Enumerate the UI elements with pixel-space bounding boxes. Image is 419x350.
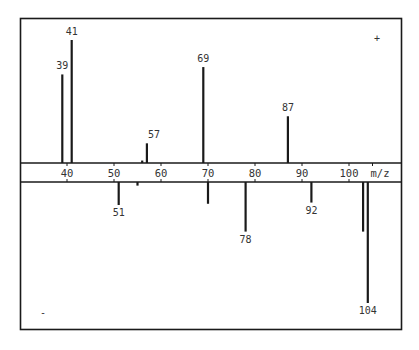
x-tick-label: 40 xyxy=(61,167,74,179)
peak-label-mz-78: 78 xyxy=(240,234,252,245)
negative-spectrum: 517892104 xyxy=(113,182,377,316)
peak-label-mz-104: 104 xyxy=(359,305,377,316)
peak-label-mz-41: 41 xyxy=(66,26,78,37)
negative-panel-symbol: - xyxy=(40,307,46,318)
x-tick-label: 90 xyxy=(296,167,309,179)
x-axis-ticks: 405060708090100 xyxy=(61,163,373,182)
peak-label-mz-69: 69 xyxy=(197,53,209,64)
peak-label-mz-51: 51 xyxy=(113,207,125,218)
peak-label-mz-92: 92 xyxy=(305,205,317,216)
x-axis-label: m/z xyxy=(371,167,390,179)
peak-label-mz-87: 87 xyxy=(282,102,294,113)
x-tick-label: 60 xyxy=(155,167,168,179)
x-tick-label: 50 xyxy=(108,167,121,179)
positive-spectrum: 3941576987 xyxy=(56,26,294,163)
x-tick-label: 100 xyxy=(340,167,359,179)
peak-label-mz-57: 57 xyxy=(148,129,160,140)
mass-spectrum-chart: 405060708090100 3941576987 517892104 m/z… xyxy=(0,0,419,350)
peak-label-mz-39: 39 xyxy=(56,60,68,71)
positive-panel-symbol: + xyxy=(374,33,380,44)
x-tick-label: 70 xyxy=(202,167,215,179)
x-tick-label: 80 xyxy=(249,167,262,179)
